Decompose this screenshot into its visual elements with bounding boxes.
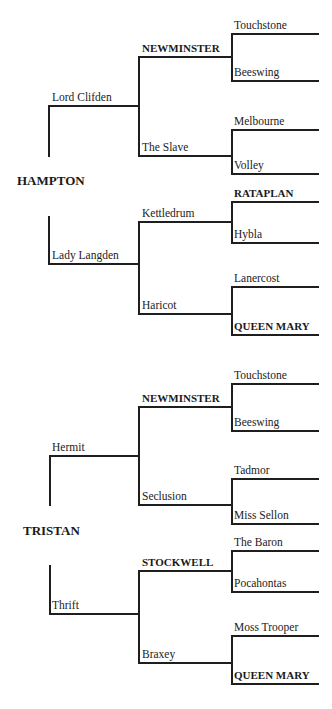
subject-horse-name: TRISTAN (23, 523, 80, 538)
bracket-line (231, 383, 233, 432)
great-grandparent-name: Touchstone (234, 369, 287, 382)
bracket-line (49, 455, 51, 506)
great-grandparent-name: QUEEN MARY (234, 320, 310, 333)
sire-sire-name: NEWMINSTER (142, 42, 220, 55)
bracket-line (138, 570, 140, 664)
bracket-line (231, 550, 233, 593)
great-grandparent-name: Hybla (234, 228, 262, 241)
bracket-line (138, 313, 233, 315)
bracket-line (138, 56, 140, 157)
pedigree-diagram: HAMPTON Lord Clifden Lady Langden NEWMIN… (0, 0, 332, 709)
bracket-line (231, 129, 319, 131)
bracket-line (231, 201, 319, 203)
bracket-line (231, 591, 319, 593)
bracket-line (231, 201, 233, 244)
bracket-line (231, 33, 233, 82)
bracket-line (49, 565, 51, 615)
bracket-line (231, 286, 319, 288)
bracket-line (138, 155, 233, 157)
bracket-line (49, 613, 140, 615)
great-grandparent-name: Tadmor (234, 464, 270, 477)
bracket-line (138, 221, 233, 223)
sire-sire-name: NEWMINSTER (142, 392, 220, 405)
bracket-line (138, 504, 233, 506)
great-grandparent-name: QUEEN MARY (234, 669, 310, 682)
dam-name: Thrift (52, 599, 79, 612)
sire-name: Lord Clifden (52, 91, 112, 104)
dam-sire-name: Kettledrum (142, 207, 194, 220)
sire-dam-name: Seclusion (142, 490, 187, 503)
bracket-line (231, 430, 319, 432)
great-grandparent-name: Lanercost (234, 272, 279, 285)
bracket-line (231, 242, 319, 244)
great-grandparent-name: Volley (234, 159, 264, 172)
great-grandparent-name: Touchstone (234, 19, 287, 32)
bracket-line (48, 105, 140, 107)
great-grandparent-name: Moss Trooper (234, 621, 298, 634)
subject-horse-name: HAMPTON (17, 173, 85, 188)
bracket-line (231, 173, 319, 175)
bracket-line (231, 383, 319, 385)
bracket-line (138, 570, 233, 572)
dam-sire-name: STOCKWELL (142, 556, 213, 569)
great-grandparent-name: Beeswing (234, 66, 279, 79)
bracket-line (138, 406, 140, 506)
bracket-line (231, 286, 233, 336)
great-grandparent-name: Melbourne (234, 115, 284, 128)
bracket-line (231, 478, 319, 480)
sire-dam-name: The Slave (142, 141, 188, 154)
great-grandparent-name: Miss Sellon (234, 509, 289, 522)
bracket-line (48, 105, 50, 157)
bracket-line (49, 455, 140, 457)
bracket-line (231, 635, 319, 637)
sire-name: Hermit (52, 441, 85, 454)
bracket-line (138, 662, 233, 664)
bracket-line (231, 80, 319, 82)
bracket-line (231, 478, 233, 525)
bracket-line (231, 683, 319, 685)
bracket-line (231, 33, 319, 35)
bracket-line (231, 129, 233, 175)
bracket-line (48, 263, 140, 265)
dam-dam-name: Braxey (142, 648, 175, 661)
bracket-line (138, 406, 233, 408)
great-grandparent-name: Beeswing (234, 416, 279, 429)
bracket-line (231, 334, 319, 336)
dam-name: Lady Langden (52, 249, 119, 262)
bracket-line (138, 56, 233, 58)
dam-dam-name: Haricot (142, 299, 176, 312)
great-grandparent-name: Pocahontas (234, 577, 286, 590)
bracket-line (48, 216, 50, 265)
bracket-line (231, 523, 319, 525)
great-grandparent-name: RATAPLAN (234, 187, 293, 200)
bracket-line (231, 635, 233, 685)
bracket-line (138, 221, 140, 315)
bracket-line (231, 550, 319, 552)
great-grandparent-name: The Baron (234, 536, 283, 549)
